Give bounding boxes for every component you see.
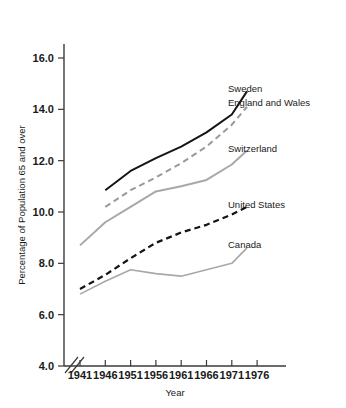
x-tick-label: 1961	[169, 369, 193, 381]
series-label-switzerland: Switzerland	[228, 143, 277, 154]
series-label-england-and-wales: England and Wales	[228, 97, 310, 108]
y-axis-ticks	[58, 58, 64, 366]
series-lines-group	[80, 91, 247, 294]
y-tick-label: 14.0	[33, 103, 54, 115]
x-tick-label: 1971	[220, 369, 244, 381]
series-line-switzerland	[80, 150, 247, 245]
y-axis-tick-labels: 4.06.08.010.012.014.016.0	[33, 52, 54, 372]
y-tick-label: 4.0	[39, 360, 54, 372]
series-line-canada	[80, 248, 247, 294]
x-tick-label: 1941	[68, 369, 92, 381]
y-tick-label: 8.0	[39, 257, 54, 269]
y-tick-label: 12.0	[33, 155, 54, 167]
y-tick-label: 16.0	[33, 52, 54, 64]
x-tick-label: 1976	[245, 369, 269, 381]
y-tick-label: 10.0	[33, 206, 54, 218]
series-line-united-states	[80, 207, 247, 289]
x-axis-ticks	[80, 360, 257, 366]
line-chart: 4.06.08.010.012.014.016.0 19411946195119…	[0, 0, 346, 408]
series-line-england-and-wales	[105, 107, 247, 207]
x-axis-tick-labels: 19411946195119561961196619711976	[68, 369, 270, 381]
x-tick-label: 1966	[194, 369, 218, 381]
series-labels-group: SwedenEngland and WalesSwitzerlandUnited…	[228, 83, 310, 250]
x-tick-label: 1946	[93, 369, 117, 381]
x-tick-label: 1956	[144, 369, 168, 381]
x-axis-title: Year	[165, 387, 184, 398]
chart-container: 4.06.08.010.012.014.016.0 19411946195119…	[0, 0, 346, 408]
y-tick-label: 6.0	[39, 309, 54, 321]
series-label-canada: Canada	[228, 239, 262, 250]
series-label-sweden: Sweden	[228, 83, 262, 94]
x-tick-label: 1951	[118, 369, 142, 381]
series-line-sweden	[105, 91, 247, 190]
series-label-united-states: United States	[228, 199, 285, 210]
y-axis-title: Percentage of Population 65 and over	[16, 125, 27, 285]
